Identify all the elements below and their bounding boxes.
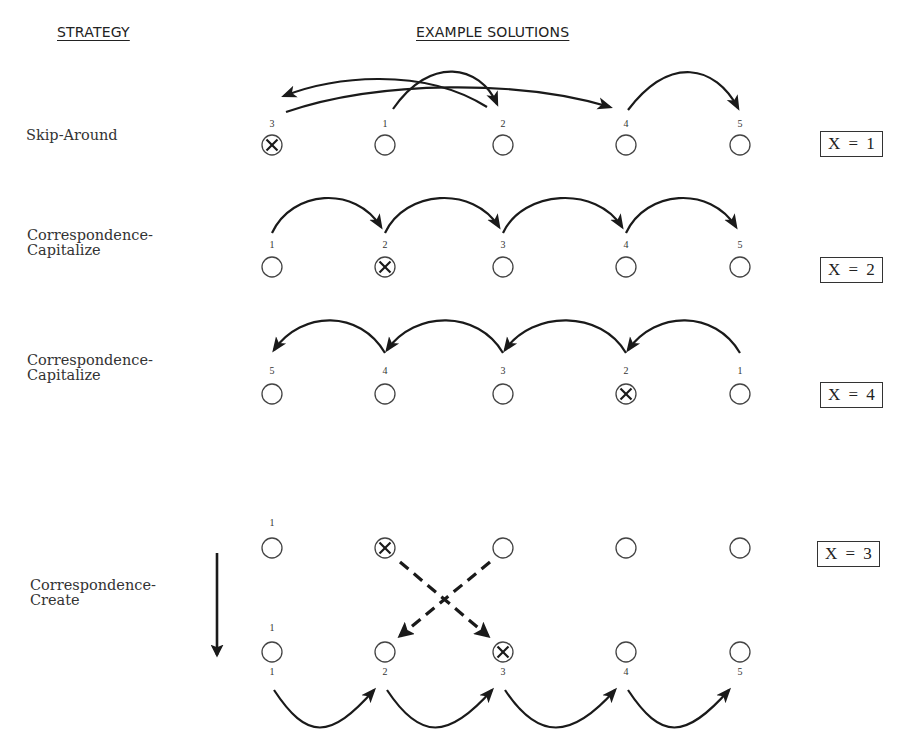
bottom-position-label: 3	[501, 666, 506, 677]
bottom-position-label: 1	[270, 666, 275, 677]
order-number-label: 4	[624, 118, 629, 129]
order-number-label: 5	[270, 365, 275, 376]
order-number-label: 2	[383, 239, 388, 250]
order-number-label: 1	[270, 239, 275, 250]
circle-icon	[493, 257, 513, 277]
arrow-forward-3	[503, 198, 622, 233]
circle-icon	[730, 257, 750, 277]
order-number-label: 5	[738, 118, 743, 129]
circle-icon	[375, 384, 395, 404]
arrow-forward-4	[626, 198, 736, 233]
circle-icon	[262, 642, 282, 662]
order-number-label: 3	[501, 365, 506, 376]
order-number-label: 1	[738, 365, 743, 376]
bottom-position-label: 5	[738, 666, 743, 677]
arrow-forward-1	[272, 198, 381, 233]
bottom-position-label: 4	[624, 666, 629, 677]
order-number-label: 4	[383, 365, 388, 376]
arrow-backward-1	[274, 320, 385, 353]
order-number-label: 2	[624, 365, 629, 376]
solutions-diagram: 3124512345543211112345	[0, 0, 914, 756]
circle-icon	[493, 135, 513, 155]
circled-x-icon	[262, 135, 282, 155]
circle-icon	[616, 257, 636, 277]
order-number-label: 3	[270, 118, 275, 129]
arrow-backward-2	[387, 320, 503, 353]
arrow-bottom-3	[505, 690, 615, 728]
bottom-position-label: 2	[383, 666, 388, 677]
arrow-4-to-5	[628, 72, 738, 110]
circle-icon	[262, 257, 282, 277]
bottom-order-label-above: 1	[270, 622, 275, 633]
order-number-label: 2	[501, 118, 506, 129]
order-number-label: 3	[501, 239, 506, 250]
arrow-forward-2	[385, 198, 499, 233]
arrow-bottom-1	[274, 690, 374, 728]
circle-icon	[730, 642, 750, 662]
circle-icon	[375, 135, 395, 155]
circle-icon	[493, 538, 513, 558]
circled-x-icon	[375, 538, 395, 558]
arrow-backward-4	[628, 320, 740, 353]
order-number-label: 4	[624, 239, 629, 250]
circle-icon	[730, 384, 750, 404]
circle-icon	[493, 384, 513, 404]
circle-icon	[730, 135, 750, 155]
circle-icon	[616, 135, 636, 155]
circle-icon	[616, 642, 636, 662]
circle-icon	[375, 642, 395, 662]
order-number-label: 5	[738, 239, 743, 250]
circle-icon	[730, 538, 750, 558]
arrow-backward-3	[505, 320, 626, 353]
circled-x-icon	[493, 642, 513, 662]
circled-x-icon	[616, 384, 636, 404]
circle-icon	[616, 538, 636, 558]
circle-icon	[262, 538, 282, 558]
arrow-3-to-4	[286, 87, 610, 112]
top-order-label: 1	[270, 517, 275, 528]
order-number-label: 1	[383, 118, 388, 129]
circle-icon	[262, 384, 282, 404]
arrow-bottom-2	[387, 690, 492, 728]
arrow-bottom-4	[628, 690, 729, 728]
circled-x-icon	[375, 257, 395, 277]
